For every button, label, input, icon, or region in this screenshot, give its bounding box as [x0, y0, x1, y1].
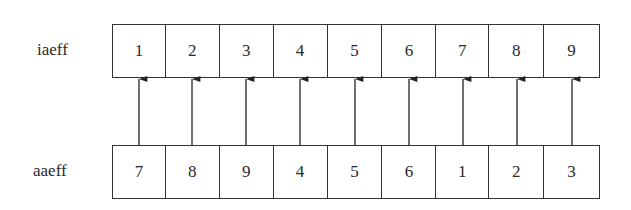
arrows-layer: [0, 0, 631, 210]
